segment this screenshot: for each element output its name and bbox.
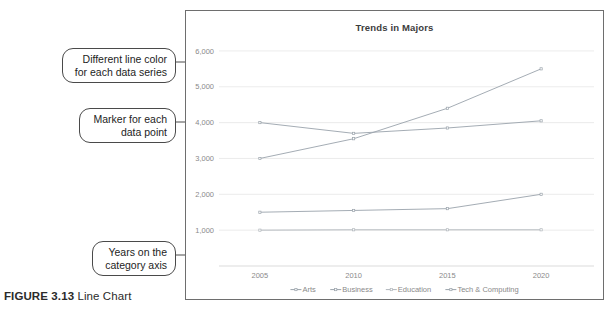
legend-marker — [390, 289, 392, 291]
figure-label: FIGURE 3.13 — [4, 290, 74, 302]
y-axis-tick-label: 2,000 — [195, 190, 214, 199]
callout-different-line-color: Different line color for each data serie… — [62, 48, 176, 83]
data-point-marker — [446, 229, 448, 231]
legend-marker — [295, 289, 297, 291]
legend-label-tech-computing: Tech & Computing — [457, 285, 518, 294]
y-axis-tick-label: 5,000 — [195, 82, 214, 91]
series-line-business — [260, 194, 541, 212]
data-point-marker — [446, 107, 448, 109]
data-point-marker — [540, 193, 542, 195]
legend-marker — [450, 289, 452, 291]
callout-line-color-text-1: Different line color — [71, 53, 167, 66]
series-line-tech-computing — [260, 69, 541, 159]
x-axis-tick-label: 2015 — [439, 271, 456, 280]
data-point-marker — [259, 157, 261, 159]
data-point-marker — [259, 211, 261, 213]
line-chart-container: Trends in Majors 1,0002,0003,0004,0005,0… — [185, 10, 604, 300]
callout-years-on-category-axis: Years on the category axis — [92, 241, 176, 276]
legend-label-business: Business — [342, 285, 373, 294]
x-axis-tick-label: 2005 — [252, 271, 269, 280]
callout-marker-text-1: Marker for each — [88, 113, 167, 126]
y-axis-tick-label: 3,000 — [195, 154, 214, 163]
data-point-marker — [353, 132, 355, 134]
figure-title: Line Chart — [77, 290, 131, 302]
figure-caption: FIGURE 3.13 Line Chart — [4, 290, 131, 302]
legend-label-arts: Arts — [302, 285, 316, 294]
x-axis-tick-label: 2010 — [345, 271, 362, 280]
data-point-marker — [540, 120, 542, 122]
callout-years-text-1: Years on the — [101, 246, 167, 259]
y-axis-tick-label: 4,000 — [195, 118, 214, 127]
callout-line-color-text-2: for each data series — [71, 66, 167, 79]
callout-marker-for-each-data-point: Marker for each data point — [79, 108, 176, 143]
y-axis-tick-label: 1,000 — [195, 226, 214, 235]
data-point-marker — [540, 68, 542, 70]
data-point-marker — [446, 208, 448, 210]
data-point-marker — [540, 229, 542, 231]
y-axis-tick-label: 6,000 — [195, 47, 214, 56]
callout-years-text-2: category axis — [101, 259, 167, 272]
line-chart-plot: 1,0002,0003,0004,0005,0006,0002005201020… — [186, 11, 603, 299]
data-point-marker — [353, 209, 355, 211]
callout-marker-text-2: data point — [88, 126, 167, 139]
data-point-marker — [259, 122, 261, 124]
data-point-marker — [353, 138, 355, 140]
x-axis-tick-label: 2020 — [533, 271, 550, 280]
data-point-marker — [446, 127, 448, 129]
data-point-marker — [259, 229, 261, 231]
data-point-marker — [353, 229, 355, 231]
legend-marker — [335, 289, 337, 291]
legend-label-education: Education — [398, 285, 431, 294]
